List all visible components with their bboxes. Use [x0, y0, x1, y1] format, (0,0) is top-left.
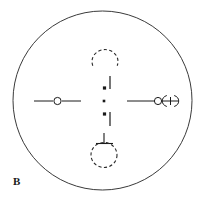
figure-canvas [0, 0, 209, 203]
lower-square-dot [103, 112, 106, 115]
left-open-circle [54, 97, 61, 104]
panel-label: B [13, 176, 20, 187]
upper-square-dot [103, 86, 106, 89]
bottom-dashed-circle [91, 143, 117, 168]
top-dashed-arc [92, 50, 118, 66]
center-dot [103, 100, 106, 103]
figure-panel-b: B [0, 0, 209, 203]
right-open-circle [154, 97, 161, 104]
